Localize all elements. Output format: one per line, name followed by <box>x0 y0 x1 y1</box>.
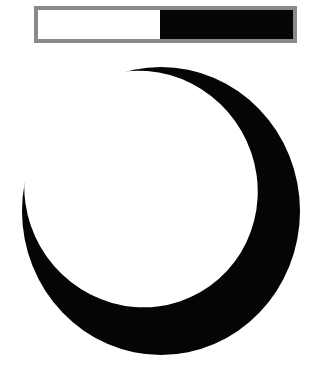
crescent-moon-icon <box>0 0 323 376</box>
moon-phase-widget <box>0 0 323 376</box>
